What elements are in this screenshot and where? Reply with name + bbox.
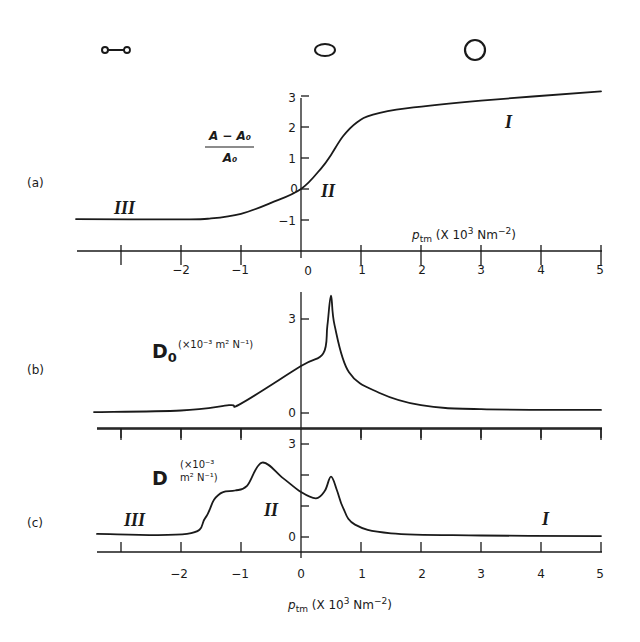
y-tick-label: 0 xyxy=(288,406,296,420)
curve-d xyxy=(97,462,601,536)
region-label-I-a: I xyxy=(504,112,513,132)
tube-shape-circle-icon xyxy=(465,40,485,60)
x-axis-label-c: ptm (X 103 Nm−2) xyxy=(287,596,392,614)
y-tick-label: 1 xyxy=(288,152,296,166)
y-label-a-denominator: A₀ xyxy=(222,151,238,165)
x-tick-label: 4 xyxy=(537,567,545,581)
y-label-c-unit-1: (×10⁻³ xyxy=(180,459,214,470)
x-tick-label: 5 xyxy=(596,263,604,277)
tube-shape-collapsed-icon xyxy=(102,47,130,53)
x-tick-label: −1 xyxy=(231,567,249,581)
region-label-II-c: II xyxy=(263,500,279,520)
panel-label-b: (b) xyxy=(27,363,44,377)
x-tick-label: 0 xyxy=(297,567,305,581)
y-tick-label: 0 xyxy=(288,530,296,544)
y-tick-label: −1 xyxy=(278,214,296,228)
x-tick-label: 2 xyxy=(418,567,426,581)
y-label-a-numerator: A − A₀ xyxy=(208,129,252,143)
y-tick-label: 3 xyxy=(288,437,296,451)
y-ticks-a xyxy=(301,96,309,220)
x-tick-label: −1 xyxy=(231,263,249,277)
y-label-b: D0 xyxy=(152,340,177,365)
x-tick-label: 1 xyxy=(358,263,366,277)
panel-b: (b) 3 0 D0 (×10⁻³ m² N⁻¹) xyxy=(27,292,602,440)
y-tick-label: 3 xyxy=(288,91,296,105)
x-tick-label: 4 xyxy=(537,263,545,277)
x-tick-label: 0 xyxy=(304,264,312,278)
x-tick-label: 1 xyxy=(358,567,366,581)
x-axis-label-a: ptm (X 103 Nm−2) xyxy=(411,226,516,244)
region-label-II-a: II xyxy=(320,181,336,201)
panel-label-a: (a) xyxy=(27,176,44,190)
tube-shape-ellipse-icon xyxy=(315,44,335,56)
y-tick-label: 2 xyxy=(288,121,296,135)
panel-a: (a) 3 2 1 0 −1 −2 −1 0 1 2 3 4 5 A − A₀ … xyxy=(27,91,604,278)
y-label-c-unit-2: m² N⁻¹) xyxy=(180,472,218,483)
x-tick-label: 2 xyxy=(418,263,426,277)
x-ticks-a xyxy=(121,245,601,265)
y-label-b-unit: (×10⁻³ m² N⁻¹) xyxy=(178,339,253,350)
panel-label-c: (c) xyxy=(27,516,43,530)
x-tick-label: −2 xyxy=(172,263,190,277)
region-label-III-c: III xyxy=(123,510,146,530)
y-label-c: D xyxy=(152,467,168,489)
x-tick-label: −2 xyxy=(170,567,188,581)
x-tick-label: 3 xyxy=(477,263,485,277)
y-tick-label: 3 xyxy=(288,312,296,326)
region-label-I-c: I xyxy=(541,509,550,529)
panel-c: (c) 3 0 −2 −1 0 1 2 3 4 5 D (×10⁻³ m² N⁻… xyxy=(27,429,604,614)
figure: (a) 3 2 1 0 −1 −2 −1 0 1 2 3 4 5 A − A₀ … xyxy=(0,0,640,642)
x-tick-label: 3 xyxy=(477,567,485,581)
x-tick-label: 5 xyxy=(596,567,604,581)
curve-area-ratio xyxy=(76,91,601,219)
region-label-III-a: III xyxy=(113,198,136,218)
